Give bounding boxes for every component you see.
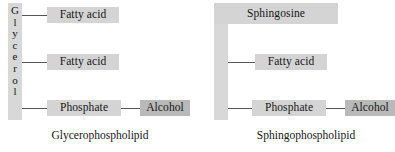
connector-phosphate-to-alcohol xyxy=(121,108,140,109)
node-sphingosine: Sphingosine xyxy=(214,3,338,24)
node-phosphate-glycero: Phosphate xyxy=(47,100,121,116)
connector-glycerol-to-fatty-acid-2 xyxy=(22,62,47,63)
node-alcohol-glycero: Alcohol xyxy=(140,100,190,116)
caption-sphingophospholipid: Sphingophospholipid xyxy=(222,130,390,142)
caption-glycerophospholipid: Glycerophospholipid xyxy=(20,130,180,142)
connector-sphingosine-to-fatty-acid xyxy=(228,62,255,63)
node-fatty-acid-sphingo: Fatty acid xyxy=(255,54,327,70)
glycerol-letter-6: r xyxy=(13,63,17,75)
node-alcohol-sphingo: Alcohol xyxy=(345,100,395,116)
connector-glycerol-to-fatty-acid-1 xyxy=(22,15,47,16)
glycerol-letter-1: G xyxy=(11,5,19,17)
node-fatty-acid-1: Fatty acid xyxy=(47,7,119,23)
phospholipid-comparison-figure: G l y c e r o l Fatty acid Fatty acid Ph… xyxy=(0,0,395,152)
connector-glycerol-to-phosphate xyxy=(22,108,47,109)
node-phosphate-sphingo: Phosphate xyxy=(252,100,326,116)
connector-phosphate-to-alcohol-sphingo xyxy=(326,108,345,109)
connector-sphingosine-to-phosphate xyxy=(228,108,252,109)
node-fatty-acid-2: Fatty acid xyxy=(47,54,119,70)
glycerol-backbone-label: G l y c e r o l xyxy=(8,5,22,98)
glycerol-letter-8: l xyxy=(13,86,16,98)
